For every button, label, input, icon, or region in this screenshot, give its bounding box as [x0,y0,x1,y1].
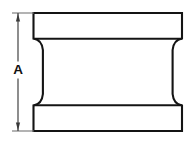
dimension-arrow-down-icon [16,123,20,131]
dimension-arrow-up-icon [16,14,20,22]
technical-drawing-canvas: A [0,0,194,145]
technical-drawing-svg: A [0,0,194,145]
dimension-label-a: A [13,62,23,77]
spool-body-outline [34,13,183,131]
